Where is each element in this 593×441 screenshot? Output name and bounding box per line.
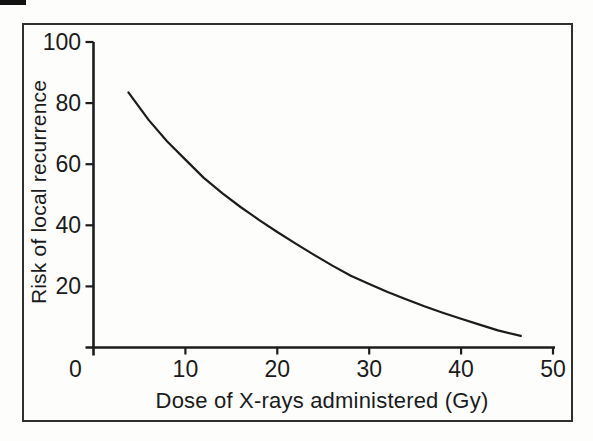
y-tick-label: 20 <box>55 273 81 299</box>
x-tick-label: 0 <box>69 356 82 382</box>
y-tick-label: 80 <box>55 90 81 116</box>
scanned-figure-page: 0102030405020406080100 Risk of local rec… <box>0 0 593 441</box>
x-tick-label: 50 <box>540 356 566 382</box>
x-tick-label: 10 <box>173 356 199 382</box>
y-axis-title: Risk of local recurrence <box>27 80 51 304</box>
x-tick-label: 30 <box>356 356 382 382</box>
x-tick-label: 20 <box>265 356 291 382</box>
y-tick-label: 100 <box>43 29 81 55</box>
x-axis-title: Dose of X-rays administered (Gy) <box>156 388 489 414</box>
risk-curve-line <box>128 92 520 336</box>
x-tick-label: 40 <box>448 356 474 382</box>
y-tick-label: 40 <box>55 212 81 238</box>
chart-canvas: 0102030405020406080100 <box>0 0 593 441</box>
y-tick-label: 60 <box>55 151 81 177</box>
